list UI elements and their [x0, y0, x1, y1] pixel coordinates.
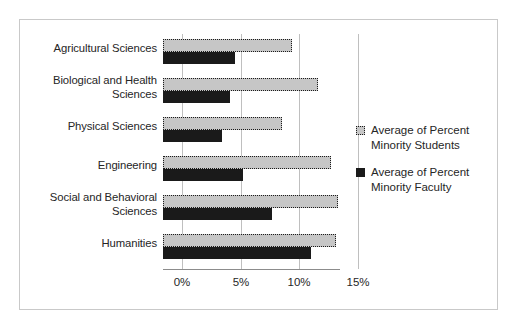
- bar-students-agricultural-sciences: [163, 39, 292, 52]
- bar-faculty-engineering: [163, 169, 243, 181]
- category-label-humanities: Humanities: [20, 237, 157, 251]
- x-tick-label-0: 0%: [162, 276, 202, 288]
- legend-label-faculty-line1: Average of Percent: [371, 165, 496, 180]
- bar-group-engineering: [163, 156, 340, 189]
- x-axis-line: [163, 269, 340, 270]
- x-tick-label-15: 15%: [338, 276, 378, 288]
- bar-group-humanities: [163, 234, 340, 267]
- x-axis-tick-labels: 0% 5% 10% 15%: [163, 276, 363, 294]
- legend-label-students-line1: Average of Percent: [371, 123, 496, 138]
- chart-legend: Average of Percent Minority Students Ave…: [356, 123, 496, 207]
- bar-faculty-agricultural-sciences: [163, 52, 235, 64]
- category-label-physical-sciences: Physical Sciences: [20, 120, 157, 134]
- bar-students-engineering: [163, 156, 331, 169]
- category-label-agricultural-sciences: Agricultural Sciences: [20, 42, 157, 56]
- category-label-engineering: Engineering: [20, 159, 157, 173]
- bar-group-physical-sciences: [163, 117, 340, 150]
- bar-students-physical-sciences: [163, 117, 282, 130]
- x-tick-label-5: 5%: [221, 276, 261, 288]
- legend-entry-faculty: Average of Percent Minority Faculty: [356, 165, 496, 194]
- category-label-social-and-behavioral-sciences: Social and Behavioral Sciences: [20, 191, 157, 218]
- legend-entry-students: Average of Percent Minority Students: [356, 123, 496, 152]
- x-tick-label-10: 10%: [279, 276, 319, 288]
- bar-students-social-and-behavioral-sciences: [163, 195, 338, 208]
- bar-chart-figure: Agricultural Sciences Biological and Hea…: [19, 19, 498, 310]
- category-label-biological-and-health-sciences: Biological and Health Sciences: [20, 74, 157, 101]
- bar-faculty-biological-and-health-sciences: [163, 91, 230, 103]
- bar-students-biological-and-health-sciences: [163, 78, 318, 91]
- bar-faculty-social-and-behavioral-sciences: [163, 208, 272, 220]
- black-square-icon: [356, 168, 365, 177]
- gray-dotted-square-icon: [356, 126, 365, 135]
- bar-students-humanities: [163, 234, 336, 247]
- bar-faculty-humanities: [163, 247, 311, 259]
- legend-label-faculty-line2: Minority Faculty: [371, 180, 496, 195]
- legend-label-students-line2: Minority Students: [371, 138, 496, 153]
- bar-group-biological-and-health-sciences: [163, 78, 340, 111]
- bar-group-social-and-behavioral-sciences: [163, 195, 340, 228]
- bar-faculty-physical-sciences: [163, 130, 222, 142]
- plot-area: [163, 34, 340, 269]
- category-axis: Agricultural Sciences Biological and Hea…: [20, 34, 163, 269]
- bar-group-agricultural-sciences: [163, 39, 340, 72]
